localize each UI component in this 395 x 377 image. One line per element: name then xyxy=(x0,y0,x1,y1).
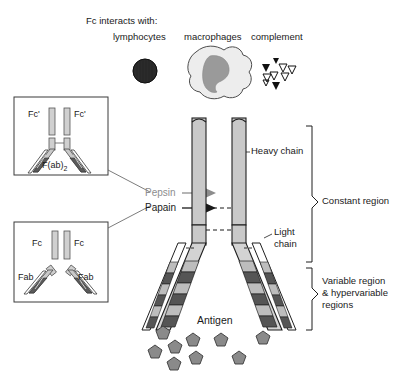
variable-region-label-line3: regions xyxy=(322,300,353,311)
inset-fab-label-fab-left: Fab xyxy=(18,272,34,282)
variable-region-label-line2: & hypervariable xyxy=(322,288,388,299)
inset-fab-label-fab-right: Fab xyxy=(78,272,94,282)
inset-fab-label-fc-left: Fc xyxy=(32,238,42,248)
inset-fab2-label-fc-left: Fc' xyxy=(28,109,40,119)
light-chain-pointer xyxy=(264,234,272,238)
antigen-particles xyxy=(148,326,270,370)
heavy-chain-left-stem xyxy=(192,118,206,225)
header-column-complement: complement xyxy=(251,32,303,43)
heavy-chain-label: Heavy chain xyxy=(251,146,303,157)
inset-fab2-fragment-label: F(ab)2 xyxy=(42,160,67,173)
variable-region-label-line1: Variable region xyxy=(322,276,385,287)
inset-fab-label-fc-right: Fc xyxy=(74,238,84,248)
papain-label: Papain xyxy=(145,202,176,214)
light-chain-label-line2: chain xyxy=(274,239,297,250)
leader-line-pepsin xyxy=(108,170,150,192)
leader-line-papain xyxy=(108,206,150,228)
lymphocyte-icon xyxy=(133,59,157,83)
light-chain-label-line1: Light xyxy=(274,227,295,238)
header-column-macrophages: macrophages xyxy=(184,32,242,43)
inset-fab2-fragment-text: F(ab) xyxy=(42,160,64,170)
macrophage-icon xyxy=(188,46,252,99)
figure-canvas: Fc interacts with: lymphocytes macrophag… xyxy=(0,0,395,377)
complement-triangles-icon xyxy=(262,58,296,90)
header-column-lymphocytes: lymphocytes xyxy=(113,32,166,43)
constant-region-label: Constant region xyxy=(322,196,389,207)
inset-fab2-label-fc-right: Fc' xyxy=(74,109,86,119)
heavy-chain-right-stem xyxy=(232,118,246,225)
inset-fab2-fragment-subscript: 2 xyxy=(64,165,68,172)
constant-region-bracket xyxy=(306,126,318,262)
header-intro: Fc interacts with: xyxy=(86,16,157,27)
variable-region-bracket xyxy=(306,268,318,330)
antigen-label: Antigen xyxy=(197,314,233,326)
pepsin-label: Pepsin xyxy=(145,187,176,199)
